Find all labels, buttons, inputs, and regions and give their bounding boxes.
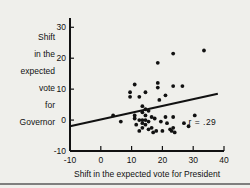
data-point bbox=[137, 95, 141, 99]
data-point bbox=[165, 121, 169, 125]
data-point bbox=[144, 114, 148, 118]
data-point bbox=[157, 98, 161, 102]
data-point bbox=[181, 84, 185, 88]
data-point bbox=[140, 126, 144, 130]
data-point bbox=[134, 123, 138, 127]
scatter-plot-figure: Shiftin theexpectedvoteforGovernor -1001… bbox=[0, 0, 250, 188]
plot-canvas: Shiftin theexpectedvoteforGovernor -1001… bbox=[0, 0, 250, 188]
data-point bbox=[159, 120, 163, 124]
y-axis-title-line: expected bbox=[21, 66, 56, 76]
y-tick-label: 10 bbox=[57, 84, 67, 94]
y-axis-title-line: for bbox=[45, 100, 55, 110]
data-point bbox=[171, 115, 175, 119]
data-point bbox=[147, 120, 151, 124]
data-point bbox=[153, 117, 157, 121]
data-point bbox=[133, 83, 137, 87]
data-point bbox=[156, 61, 160, 65]
data-point bbox=[154, 129, 158, 133]
x-tick-label: 10 bbox=[127, 155, 137, 165]
data-point bbox=[119, 120, 123, 124]
data-point bbox=[144, 123, 148, 127]
data-point bbox=[133, 117, 137, 121]
x-axis-title-text: Shift in the expected vote for President bbox=[74, 169, 221, 179]
data-point bbox=[128, 90, 132, 94]
data-point bbox=[182, 121, 186, 125]
y-tick-label: 0 bbox=[61, 115, 66, 125]
data-point bbox=[171, 84, 175, 88]
data-point bbox=[161, 129, 165, 133]
data-point bbox=[171, 52, 175, 56]
data-point bbox=[144, 90, 148, 94]
y-axis-title-line: in the bbox=[34, 49, 55, 59]
data-point bbox=[150, 126, 154, 130]
y-axis-title-line: Shift bbox=[38, 32, 56, 42]
x-tick-label: 0 bbox=[98, 155, 103, 165]
data-point bbox=[202, 49, 206, 53]
x-tick-label: -10 bbox=[64, 155, 77, 165]
data-point bbox=[156, 86, 160, 90]
x-tick-label: 20 bbox=[158, 155, 168, 165]
y-axis-title-line: Governor bbox=[20, 117, 56, 127]
y-tick-label: 20 bbox=[57, 53, 67, 63]
data-point bbox=[137, 129, 141, 133]
data-point bbox=[128, 95, 132, 99]
data-point bbox=[156, 81, 160, 85]
y-axis-title-line: vote bbox=[39, 83, 55, 93]
data-point bbox=[164, 115, 168, 119]
data-point bbox=[173, 131, 177, 135]
data-point bbox=[164, 93, 168, 97]
x-tick-label: 40 bbox=[219, 155, 229, 165]
y-tick-label: 30 bbox=[57, 22, 67, 32]
x-tick-label: 30 bbox=[188, 155, 198, 165]
data-point bbox=[140, 104, 144, 108]
data-point bbox=[171, 126, 175, 130]
correlation-annotation: r = .29 bbox=[189, 117, 217, 127]
